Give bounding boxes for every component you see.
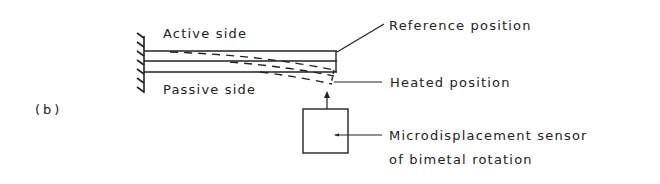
arrow-up-icon	[324, 91, 330, 109]
sensor-box	[303, 109, 348, 153]
panel-label: (b)	[35, 102, 62, 117]
fixed-wall	[137, 33, 144, 93]
passive-side-label: Passive side	[163, 82, 256, 97]
sensor-leader-arrow-icon	[334, 134, 339, 137]
sensor-label-line2: of bimetal rotation	[389, 152, 533, 167]
heated-position-label: Heated position	[390, 75, 511, 90]
bimetal-strip-reference	[144, 51, 337, 72]
sensor-label-line1: Microdisplacement sensor	[389, 128, 588, 143]
reference-leader-line	[337, 24, 384, 52]
reference-position-label: Reference position	[389, 18, 532, 33]
bimetal-diagram: Reference position Heated position Activ…	[0, 0, 660, 184]
bimetal-strip-heated	[170, 52, 334, 84]
active-side-label: Active side	[163, 26, 247, 41]
